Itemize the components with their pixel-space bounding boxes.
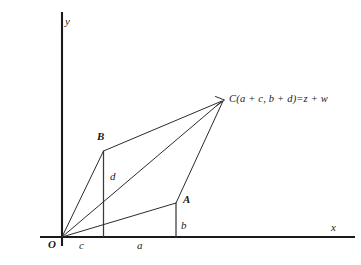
segment-label-b: b	[181, 220, 187, 231]
edge-b-to-c	[104, 101, 223, 151]
origin-label: O	[48, 239, 56, 250]
edge-a-to-c	[176, 101, 223, 203]
vector-o-to-c	[62, 102, 221, 237]
segment-label-a: a	[137, 240, 143, 251]
point-label-b: B	[97, 131, 104, 142]
x-axis-label: x	[331, 222, 336, 233]
segment-label-c: c	[79, 240, 84, 251]
complex-addition-diagram: y x O c a b d B A C(a + c, b + d)=z + w	[0, 0, 361, 265]
vector-o-to-a	[62, 203, 176, 237]
point-label-a: A	[183, 194, 190, 205]
arrowhead-c	[216, 97, 225, 106]
segment-label-d: d	[110, 171, 116, 182]
y-axis-label: y	[65, 16, 70, 27]
point-label-c: C(a + c, b + d)=z + w	[229, 94, 328, 105]
vector-o-to-b	[62, 151, 104, 237]
